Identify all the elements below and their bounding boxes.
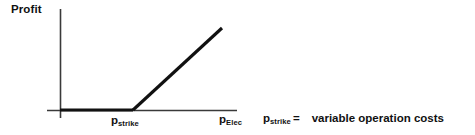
payoff-rising-segment: [133, 28, 222, 110]
y-axis-label: Profit: [11, 4, 42, 16]
legend-equals-sign: =: [293, 113, 300, 125]
x-axis-label-subscript: Elec: [226, 118, 242, 127]
legend-symbol-base: p: [263, 112, 270, 124]
x-axis-label: pElec: [219, 114, 242, 126]
legend-symbol: pstrike: [263, 113, 291, 125]
strike-tick-base: p: [111, 114, 118, 126]
legend-symbol-subscript: strike: [270, 117, 291, 126]
x-axis-label-base: p: [219, 113, 226, 125]
x-axis-tick-label-strike: pstrike: [111, 115, 139, 127]
strike-tick-subscript: strike: [118, 119, 139, 128]
legend-definition-text: variable operation costs: [312, 113, 444, 125]
legend-definition: pstrike = variable operation costs: [263, 113, 444, 125]
